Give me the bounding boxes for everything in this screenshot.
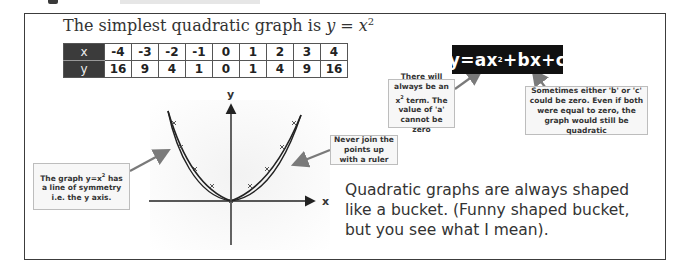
- note-a-post: term. The value of 'a' cannot be zero: [398, 95, 447, 134]
- general-formula: y=ax2+bx+c: [452, 45, 563, 74]
- note-ruler: Never join the points up with a ruler: [330, 135, 398, 165]
- formula-pre: y=ax: [449, 50, 498, 70]
- parabola-curve: [168, 111, 301, 201]
- arrow-symmetry: [130, 151, 167, 171]
- x-axis-label: x: [322, 195, 329, 208]
- y-axis-label: y: [227, 88, 234, 101]
- note-bc-terms: Sometimes either 'b' or 'c' could be zer…: [525, 86, 648, 135]
- formula-post: +bx+c: [503, 50, 566, 70]
- arrow-ruler: [295, 150, 330, 164]
- bucket-paragraph: Quadratic graphs are always shaped like …: [345, 180, 655, 240]
- note-a-term: There will always be an x2 term. The val…: [388, 79, 455, 128]
- note-symmetry-pre: The graph y=x: [40, 173, 102, 182]
- note-symmetry: The graph y=x2 has a line of symmetry i.…: [33, 163, 130, 210]
